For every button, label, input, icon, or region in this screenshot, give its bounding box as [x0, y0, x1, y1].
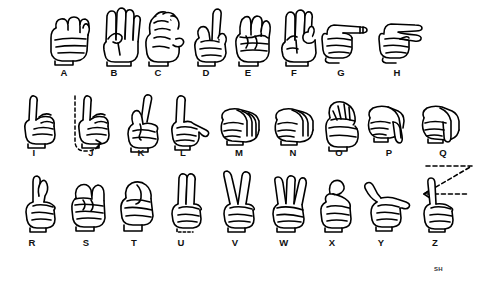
sign-letter-s	[61, 172, 117, 234]
label-letter-a: A	[54, 68, 74, 78]
label-letter-j: J	[81, 148, 101, 158]
sign-letter-v	[210, 172, 266, 234]
label-letter-b: B	[104, 68, 124, 78]
sign-letter-p	[362, 92, 418, 154]
label-letter-f: F	[284, 68, 304, 78]
label-letter-v: V	[225, 238, 245, 248]
label-letter-x: X	[322, 238, 342, 248]
label-letter-o: O	[329, 148, 349, 158]
sign-letter-j	[66, 92, 122, 154]
label-letter-y: Y	[371, 238, 391, 248]
label-letter-c: C	[148, 68, 168, 78]
sign-letter-u	[157, 172, 213, 234]
label-letter-m: M	[229, 148, 249, 158]
sign-letter-l	[158, 92, 214, 154]
label-letter-n: N	[283, 148, 303, 158]
label-letter-q: Q	[433, 148, 453, 158]
sign-letter-m	[213, 92, 269, 154]
sign-letter-a	[42, 6, 98, 68]
label-letter-g: G	[331, 68, 351, 78]
label-letter-p: P	[379, 148, 399, 158]
label-letter-d: D	[196, 68, 216, 78]
label-letter-u: U	[171, 238, 191, 248]
label-letter-z: Z	[425, 238, 445, 248]
sign-letter-i	[12, 92, 68, 154]
sign-letter-y	[357, 172, 413, 234]
artist-signature: SH	[434, 266, 443, 272]
label-letter-s: S	[76, 238, 96, 248]
sign-letter-x	[308, 172, 364, 234]
asl-alphabet-chart: A B C D E F G H	[0, 0, 485, 287]
sign-letter-z	[408, 172, 464, 234]
sign-letter-g	[315, 6, 371, 68]
label-letter-h: H	[387, 68, 407, 78]
sign-letter-r	[11, 172, 67, 234]
sign-letter-q	[416, 92, 472, 154]
label-letter-i: I	[24, 148, 44, 158]
label-letter-t: T	[124, 238, 144, 248]
label-letter-r: R	[22, 238, 42, 248]
label-letter-k: K	[131, 148, 151, 158]
sign-letter-h	[372, 6, 428, 68]
label-letter-w: W	[274, 238, 294, 248]
label-letter-l: L	[173, 148, 193, 158]
label-letter-e: E	[238, 68, 258, 78]
